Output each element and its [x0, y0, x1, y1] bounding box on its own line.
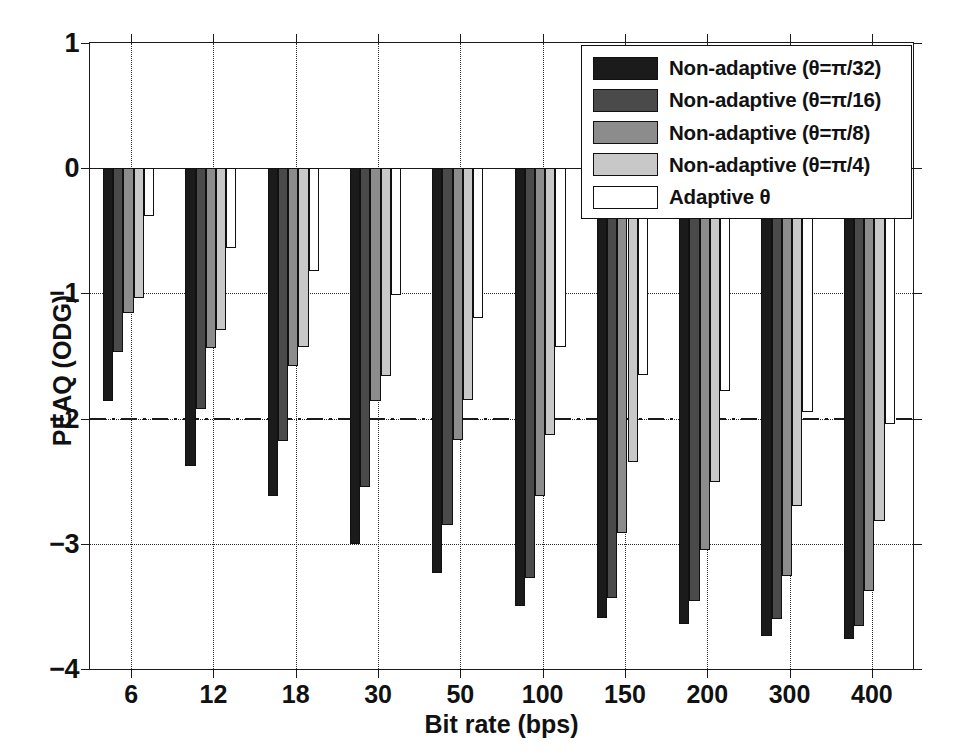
- legend-swatch-0: [593, 57, 658, 80]
- y-tick-label: 1: [64, 28, 79, 59]
- bar-300-series2: [782, 168, 792, 576]
- legend-label-4: Adaptive θ: [669, 185, 770, 209]
- y-tick: [81, 293, 90, 294]
- bar-18-series4: [309, 168, 319, 271]
- bar-12-series3: [216, 168, 226, 330]
- bar-18-series2: [288, 168, 298, 366]
- x-tick: [790, 669, 791, 678]
- bar-300-series1: [772, 168, 782, 619]
- x-tick: [707, 34, 708, 43]
- legend-swatch-3: [593, 153, 658, 176]
- bar-18-series1: [278, 168, 288, 441]
- legend-item: Non-adaptive (θ=π/4): [593, 150, 902, 180]
- x-tick-label: 18: [282, 680, 310, 709]
- bar-50-series4: [473, 168, 483, 318]
- legend-label-2: Non-adaptive (θ=π/8): [669, 121, 870, 145]
- legend-label-1: Non-adaptive (θ=π/16): [669, 88, 881, 112]
- bar-30-series2: [370, 168, 380, 401]
- bar-30-series4: [391, 168, 401, 294]
- x-tick: [460, 34, 461, 43]
- x-tick: [625, 669, 626, 678]
- legend-swatch-2: [593, 121, 658, 144]
- bar-200-series0: [679, 168, 689, 624]
- x-tick-label: 300: [769, 680, 811, 709]
- y-tick: [913, 419, 922, 420]
- x-axis-title: Bit rate (bps): [89, 710, 914, 739]
- bar-400-series2: [864, 168, 874, 591]
- bar-100-series0: [515, 168, 525, 606]
- x-tick: [543, 669, 544, 678]
- y-tick: [81, 168, 90, 169]
- bar-100-series2: [535, 168, 545, 496]
- bar-30-series1: [360, 168, 370, 487]
- bar-6-series3: [134, 168, 144, 298]
- y-tick: [81, 43, 90, 44]
- bar-6-series1: [113, 168, 123, 352]
- bar-6-series0: [103, 168, 113, 401]
- legend-item: Non-adaptive (θ=π/32): [593, 53, 902, 83]
- bar-6-series2: [123, 168, 133, 313]
- y-tick: [913, 544, 922, 545]
- chart-legend: Non-adaptive (θ=π/32) Non-adaptive (θ=π/…: [581, 45, 912, 219]
- bar-50-series3: [463, 168, 473, 400]
- bar-12-series1: [196, 168, 206, 408]
- y-tick: [913, 168, 922, 169]
- y-tick-label: −4: [49, 654, 79, 685]
- x-tick-label: 30: [364, 680, 392, 709]
- bar-150-series1: [607, 168, 617, 597]
- x-tick: [707, 669, 708, 678]
- bar-30-series3: [381, 168, 391, 376]
- y-tick-label: −3: [49, 528, 79, 559]
- x-tick: [378, 34, 379, 43]
- legend-label-3: Non-adaptive (θ=π/4): [669, 153, 870, 177]
- bar-150-series0: [597, 168, 607, 617]
- x-tick: [131, 669, 132, 678]
- bar-6-series4: [144, 168, 154, 216]
- gridline-x-6: [131, 43, 132, 669]
- bar-200-series2: [700, 168, 710, 550]
- legend-swatch-4: [593, 186, 658, 209]
- x-tick: [460, 669, 461, 678]
- bar-400-series3: [874, 168, 884, 521]
- legend-label-0: Non-adaptive (θ=π/32): [669, 56, 881, 80]
- x-tick: [625, 34, 626, 43]
- y-tick: [81, 419, 90, 420]
- x-tick: [296, 669, 297, 678]
- bar-100-series1: [525, 168, 535, 577]
- y-tick: [81, 544, 90, 545]
- bar-50-series0: [432, 168, 442, 572]
- x-tick: [378, 669, 379, 678]
- x-tick: [872, 34, 873, 43]
- legend-item: Non-adaptive (θ=π/16): [593, 85, 902, 115]
- y-tick: [913, 293, 922, 294]
- bar-400-series1: [854, 168, 864, 626]
- y-axis-title: PEAQ (ODG): [48, 221, 77, 521]
- y-tick: [913, 43, 922, 44]
- x-tick: [213, 669, 214, 678]
- y-tick: [913, 669, 922, 670]
- legend-item: Non-adaptive (θ=π/8): [593, 118, 902, 148]
- legend-item: Adaptive θ: [593, 182, 902, 212]
- x-tick: [872, 669, 873, 678]
- bar-12-series2: [206, 168, 216, 348]
- bar-12-series4: [226, 168, 236, 248]
- legend-swatch-1: [593, 89, 658, 112]
- y-tick-label: 0: [64, 153, 79, 184]
- x-tick-label: 200: [686, 680, 728, 709]
- x-tick-label: 150: [604, 680, 646, 709]
- x-tick-label: 400: [851, 680, 893, 709]
- x-tick-label: 50: [446, 680, 474, 709]
- x-tick: [543, 34, 544, 43]
- bar-50-series1: [442, 168, 452, 525]
- bar-400-series0: [844, 168, 854, 639]
- bar-200-series1: [689, 168, 699, 601]
- gridline-x-12: [213, 43, 214, 669]
- x-tick: [213, 34, 214, 43]
- bar-100-series4: [555, 168, 565, 347]
- x-tick-label: 100: [522, 680, 564, 709]
- bar-18-series0: [268, 168, 278, 496]
- bar-18-series3: [298, 168, 308, 347]
- bar-30-series0: [350, 168, 360, 544]
- chart-figure: 10−1−2−3−4612183050100150200300400 PEAQ …: [0, 0, 960, 755]
- bar-300-series0: [761, 168, 771, 636]
